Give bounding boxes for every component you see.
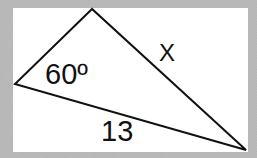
side-x-label: X (159, 41, 175, 65)
angle-label: 60º (45, 60, 88, 89)
side-base-label: 13 (101, 117, 133, 146)
